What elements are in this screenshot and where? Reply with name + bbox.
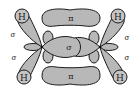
label-sigma-right-bottom: σ [125,54,130,62]
label-sigma-center: σ [66,43,72,52]
label-h-bottom-left: H [20,73,28,83]
label-pi-bottom: π [68,72,73,81]
label-h-top-left: H [18,12,26,22]
carbon-left-node [41,46,44,49]
label-h-bottom-right: H [116,73,124,83]
label-sigma-left-top: σ [11,31,16,39]
ethylene-orbital-diagram: H H H H π π σ σ σ σ σ [0,0,135,92]
carbon-right-node [99,46,102,49]
label-sigma-right-top: σ [125,34,130,42]
label-pi-top: π [68,14,73,23]
label-h-top-right: H [114,12,122,22]
label-sigma-left-bottom: σ [12,54,17,62]
